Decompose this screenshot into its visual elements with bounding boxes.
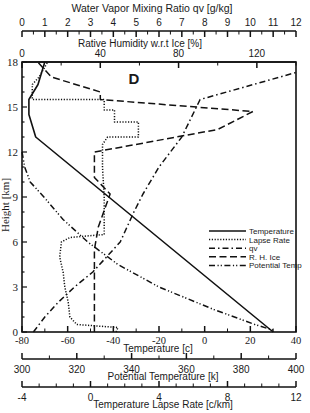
x-tick-label: 6 [156, 17, 162, 28]
y-tick-label: 18 [7, 56, 19, 68]
x-tick-label: 380 [233, 364, 250, 375]
y-tick-label: 6 [13, 236, 19, 248]
x-tick-label: 10 [245, 17, 257, 28]
x-tick-label: 0 [19, 17, 25, 28]
x-tick-label: -60 [61, 335, 75, 346]
x-tick-label: 20 [245, 335, 256, 346]
plot-series [22, 62, 296, 332]
qv-axis: 0123456789101112 [19, 17, 302, 37]
x-tick-label: -4 [18, 392, 27, 403]
ptemp-axis-title: Potential Temperature [k] [108, 371, 219, 382]
x-tick-label: 2 [65, 17, 71, 28]
panel-label: D [129, 70, 140, 87]
x-tick-label: 300 [14, 364, 31, 375]
y-tick-label: 3 [13, 281, 19, 293]
legend: TemperatureLapse RateqvR. H. IcePotentia… [209, 227, 302, 270]
x-tick-label: 3 [88, 17, 94, 28]
y-tick-label: 12 [7, 146, 18, 158]
plot-frame [22, 62, 296, 332]
x-tick-label: -80 [15, 335, 29, 346]
x-tick-label: 40 [291, 335, 302, 346]
y-axis-title: Height [km] [0, 178, 11, 232]
legend-label: Potential Temp [249, 261, 302, 270]
x-tick-label: 4 [111, 17, 117, 28]
x-tick-label: 400 [288, 364, 305, 375]
temp-axis-title: Temperature [c] [123, 343, 193, 354]
x-tick-label: 0 [19, 48, 25, 59]
top-inner-axis-title: Rative Humidity w.r.t Ice [%] [78, 38, 202, 49]
x-tick-label: 9 [225, 17, 231, 28]
series-lapse-rate [32, 62, 138, 332]
x-tick-label: -40 [106, 335, 120, 346]
top-outer-axis-title: Water Vapor Mixing Ratio qv [g/kg] [71, 2, 232, 14]
x-tick-label: 12 [290, 17, 302, 28]
lapse-axis-title: Temperature Lapse Rate [c/km] [93, 399, 233, 410]
y-tick-label: 9 [13, 191, 19, 203]
x-tick-label: 8 [202, 17, 208, 28]
x-tick-label: 7 [179, 17, 185, 28]
x-tick-label: 12 [290, 392, 302, 403]
x-tick-label: 11 [268, 17, 279, 28]
rh-ice-axis: 04080120 [19, 48, 296, 68]
atmospheric-profile-chart: 0123456789101112 04080120 0369121518 Tem… [0, 0, 310, 413]
y-tick-label: 15 [7, 101, 19, 113]
x-tick-label: 0 [202, 335, 207, 346]
x-tick-label: 120 [249, 48, 266, 59]
series-qv [33, 73, 296, 333]
x-tick-label: 40 [95, 48, 107, 59]
x-tick-label: 1 [42, 17, 48, 28]
x-tick-label: 80 [173, 48, 185, 59]
series-potential-temp [22, 152, 274, 331]
x-tick-label: 5 [133, 17, 139, 28]
x-tick-label: 320 [68, 364, 85, 375]
